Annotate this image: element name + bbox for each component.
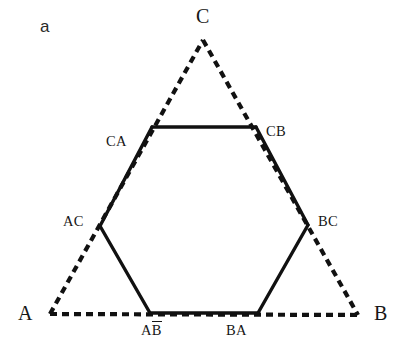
label-bc: BC	[318, 214, 338, 229]
label-cb: CB	[266, 124, 286, 139]
geometry-diagram	[0, 0, 410, 347]
label-b: B	[374, 303, 388, 323]
label-c: C	[196, 6, 210, 26]
hexagon-solid-outline	[100, 127, 308, 313]
edge-AB-AC	[100, 226, 150, 313]
figure-panel: a ABCCACBBCBAABAC	[0, 0, 410, 347]
label-ba: BA	[226, 323, 247, 338]
panel-letter: a	[40, 18, 49, 35]
edge-BC-BA	[258, 225, 308, 313]
triangle-dashed-outline	[50, 40, 358, 315]
edge-CB-BC	[256, 127, 308, 225]
label-ca: CA	[106, 134, 127, 149]
label-ab: AB	[141, 323, 162, 338]
label-ac: AC	[63, 214, 84, 229]
label-overbar: B	[152, 323, 162, 338]
label-a: A	[18, 303, 33, 323]
